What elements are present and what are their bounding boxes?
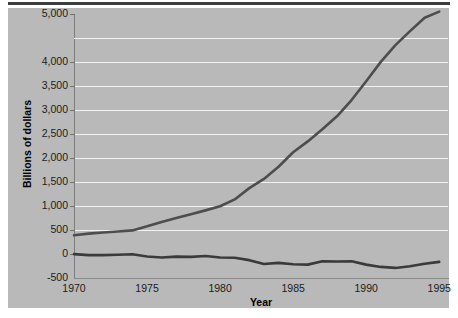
data-line-annual-deficit [74, 254, 439, 268]
data-series-group [8, 8, 449, 308]
chart-panel: Billions of dollars 5,0004,0003,5003,000… [8, 8, 449, 308]
data-line-gross-federal-debt [74, 12, 439, 236]
x-axis-title: Year [74, 296, 448, 308]
chart-figure: Billions of dollars 5,0004,0003,5003,000… [0, 0, 458, 318]
top-rule-divider [8, 2, 450, 5]
